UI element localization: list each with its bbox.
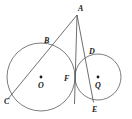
center-dot-q	[97, 76, 100, 79]
segment-a-to-f	[75, 15, 78, 104]
point-label-e: E	[91, 105, 97, 114]
center-label-q: Q	[95, 81, 101, 90]
point-label-d: D	[88, 47, 95, 56]
center-label-o: O	[38, 81, 44, 90]
point-label-f: F	[63, 74, 70, 83]
point-label-b: B	[43, 36, 50, 45]
point-label-c: C	[4, 97, 10, 106]
center-dot-o	[40, 76, 43, 79]
geometry-diagram-canvas: A B C D E F O Q	[0, 0, 132, 119]
segment-a-to-e	[77, 15, 94, 103]
point-label-a: A	[77, 4, 84, 13]
geometry-figure: A B C D E F O Q	[0, 0, 132, 119]
